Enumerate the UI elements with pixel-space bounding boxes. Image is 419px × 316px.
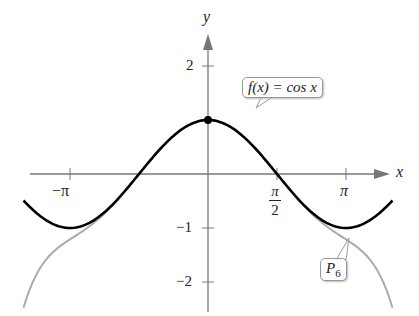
tick-label-pi: π [340,182,348,200]
point-0-1 [204,116,212,124]
tick-label-mpi: −π [52,182,69,200]
x-axis-arrow-icon [374,169,390,179]
y-axis-label: y [203,8,210,26]
y-axis-arrow-icon [203,34,213,50]
tick-label-m2: −2 [176,273,192,290]
tick-label-m1: −1 [176,219,192,236]
tick-label-pi-over-2: π 2 [269,183,281,218]
x-axis-label: x [396,163,403,181]
plot-area [0,0,419,316]
callout-cos: f(x) = cos x [242,77,323,98]
tick-label-2: 2 [186,57,194,74]
callout-p6: P6 [320,258,347,281]
